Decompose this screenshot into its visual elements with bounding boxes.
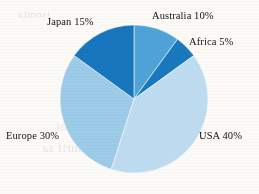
pie-slices-group bbox=[60, 25, 208, 173]
pie-chart-svg bbox=[0, 0, 259, 194]
pie-label-europe: Europe 30% bbox=[6, 131, 59, 142]
pie-label-australia: Australia 10% bbox=[152, 11, 214, 22]
pie-label-africa: Africa 5% bbox=[189, 37, 233, 48]
pie-label-usa: USA 40% bbox=[199, 131, 242, 142]
pie-chart-figure: noitnevnoc fo segami tib a sa ylmrif sa … bbox=[0, 0, 259, 194]
pie-label-japan: Japan 15% bbox=[47, 17, 94, 28]
